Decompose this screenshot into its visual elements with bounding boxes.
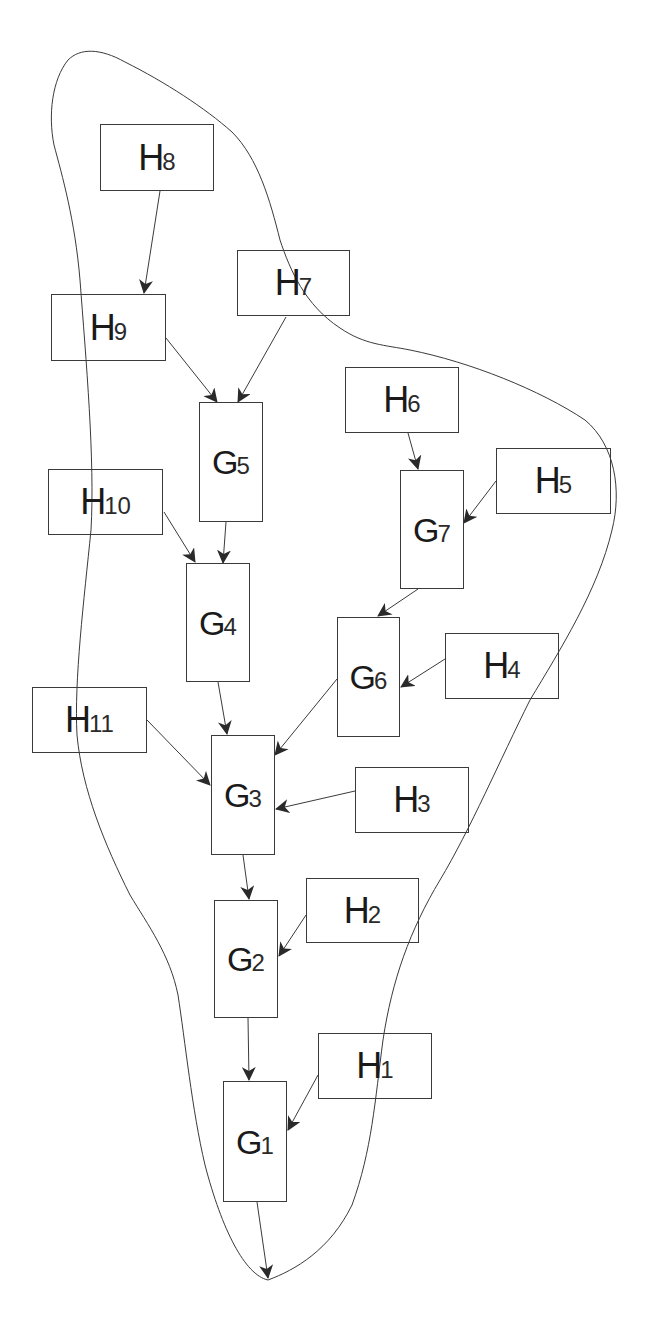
node-h9: H9 xyxy=(51,294,166,361)
node-letter: H xyxy=(80,484,105,520)
node-h6: H6 xyxy=(345,367,459,433)
node-label: H6 xyxy=(383,382,420,418)
edge-h5-to-g7-arrow-icon xyxy=(464,481,496,523)
node-h8: H8 xyxy=(100,124,214,191)
node-letter: H xyxy=(535,463,560,499)
edge-g5-to-g4-arrow-icon xyxy=(223,522,226,563)
node-g2: G2 xyxy=(214,900,278,1018)
node-letter: G xyxy=(199,606,224,640)
node-g7: G7 xyxy=(400,470,464,589)
node-subscript: 1 xyxy=(380,1058,393,1082)
node-letter: G xyxy=(236,1125,261,1159)
node-label: G7 xyxy=(413,513,451,547)
node-label: G1 xyxy=(236,1125,274,1159)
node-letter: G xyxy=(224,778,249,812)
edge-h6-to-g7-arrow-icon xyxy=(408,433,418,469)
edge-g2-to-g1-arrow-icon xyxy=(248,1018,249,1080)
edge-h3-to-g3-arrow-icon xyxy=(276,791,355,809)
node-label: H8 xyxy=(138,140,175,176)
node-h11: H11 xyxy=(32,687,147,753)
node-subscript: 2 xyxy=(368,903,381,927)
node-letter: H xyxy=(356,1048,381,1084)
node-subscript: 9 xyxy=(114,320,127,344)
node-subscript: 6 xyxy=(374,669,387,693)
edge-g3-to-g2-arrow-icon xyxy=(243,855,249,899)
node-label: H11 xyxy=(65,702,114,738)
edge-g4-to-g3-arrow-icon xyxy=(218,682,227,734)
edge-h10-to-g4-arrow-icon xyxy=(164,512,195,562)
node-letter: H xyxy=(393,782,418,818)
edge-h2-to-g2-arrow-icon xyxy=(279,915,306,956)
node-h1: H1 xyxy=(318,1033,432,1099)
node-letter: H xyxy=(344,893,369,929)
node-label: G5 xyxy=(212,445,250,479)
node-label: G2 xyxy=(227,942,265,976)
node-subscript: 3 xyxy=(249,787,262,811)
node-label: H4 xyxy=(483,648,520,684)
node-label: H1 xyxy=(356,1048,393,1084)
node-h4: H4 xyxy=(445,633,559,699)
node-letter: H xyxy=(65,702,90,738)
node-letter: H xyxy=(383,382,408,418)
edge-g7-to-g6-arrow-icon xyxy=(378,589,418,616)
node-label: G4 xyxy=(199,606,237,640)
edge-h8-to-h9-arrow-icon xyxy=(144,191,160,293)
node-h7: H7 xyxy=(237,250,350,316)
edge-h4-to-g6-arrow-icon xyxy=(401,659,445,687)
diagram-canvas: H8H7H9H6G5H5H10G7G4G6H4H11G3H3H2G2H1G1 xyxy=(0,0,650,1327)
node-h3: H3 xyxy=(355,767,469,833)
node-letter: G xyxy=(350,660,375,694)
node-subscript: 4 xyxy=(224,615,237,639)
edge-h11-to-g3-arrow-icon xyxy=(147,720,210,785)
node-subscript: 4 xyxy=(507,658,520,682)
edge-h7-to-g5-arrow-icon xyxy=(238,317,286,402)
node-letter: G xyxy=(212,445,237,479)
node-subscript: 10 xyxy=(104,494,131,518)
node-letter: H xyxy=(138,140,163,176)
node-h2: H2 xyxy=(306,878,419,943)
edge-g1-to-boundary-tip-arrow-icon xyxy=(257,1202,268,1278)
edge-g6-to-g3-arrow-icon xyxy=(275,679,337,755)
edge-h1-to-g1-arrow-icon xyxy=(288,1075,318,1130)
node-g6: G6 xyxy=(337,617,400,737)
node-subscript: 1 xyxy=(261,1134,274,1158)
node-g5: G5 xyxy=(199,402,263,522)
node-letter: H xyxy=(483,648,508,684)
node-subscript: 2 xyxy=(252,951,265,975)
node-subscript: 3 xyxy=(417,792,430,816)
node-subscript: 5 xyxy=(237,454,250,478)
node-g3: G3 xyxy=(211,735,275,855)
node-g1: G1 xyxy=(223,1081,287,1202)
node-h10: H10 xyxy=(48,469,163,535)
edge-h9-to-g5-arrow-icon xyxy=(166,338,217,402)
node-subscript: 11 xyxy=(89,712,114,736)
node-label: G3 xyxy=(224,778,262,812)
node-subscript: 6 xyxy=(407,392,420,416)
node-label: H9 xyxy=(90,310,127,346)
node-subscript: 8 xyxy=(162,150,175,174)
node-label: H5 xyxy=(535,463,572,499)
node-subscript: 7 xyxy=(299,275,312,299)
node-letter: G xyxy=(413,513,438,547)
node-letter: H xyxy=(275,265,300,301)
node-label: H10 xyxy=(80,484,131,520)
node-label: H7 xyxy=(275,265,312,301)
node-h5: H5 xyxy=(496,448,611,514)
node-label: H2 xyxy=(344,893,381,929)
node-label: H3 xyxy=(393,782,430,818)
edge-lines xyxy=(144,191,496,1278)
node-label: G6 xyxy=(350,660,388,694)
node-letter: H xyxy=(90,310,115,346)
node-subscript: 7 xyxy=(438,522,451,546)
node-g4: G4 xyxy=(186,563,250,682)
node-letter: G xyxy=(227,942,252,976)
node-subscript: 5 xyxy=(559,473,572,497)
